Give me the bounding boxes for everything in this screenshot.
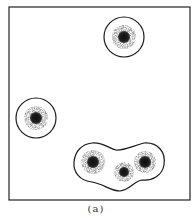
particle xyxy=(134,151,156,173)
figure-caption: (a) xyxy=(0,203,192,214)
particle-core xyxy=(119,167,129,177)
particle-core xyxy=(118,31,130,43)
particle-core xyxy=(30,112,42,124)
particle-core xyxy=(87,156,99,168)
particle xyxy=(114,162,134,182)
particle xyxy=(81,150,105,174)
particle-diagram xyxy=(0,0,192,219)
particle-core xyxy=(139,156,151,168)
